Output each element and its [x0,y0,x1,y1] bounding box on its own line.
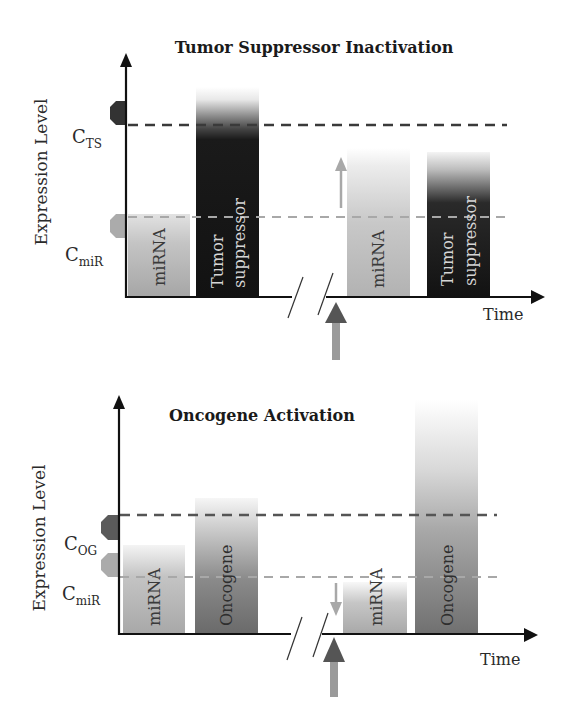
increase-arrow-icon [335,157,347,208]
bar-label-oncogene-after: Oncogene [438,545,457,627]
threshold-marker-cmir-icon [101,553,119,577]
threshold-label-cts: CTS [72,126,102,151]
y-axis-label: Expression Level [31,99,51,246]
x-axis-arrow-icon [524,628,538,642]
panel-tumor-suppressor-inactivation: Tumor Suppressor Inactivation Expression… [31,38,545,360]
axis-break-mark [287,617,302,660]
event-arrow-icon [325,302,347,360]
y-axis-arrow-icon [120,53,132,67]
threshold-label-cmir: CmiR [62,583,101,608]
threshold-label-cmir: CmiR [65,244,104,269]
threshold-marker-cts-icon [110,101,126,125]
bar-label-tumor-before-line2: suppressor [230,198,249,288]
panel-title: Oncogene Activation [169,406,355,425]
threshold-marker-cmir-icon [110,214,126,238]
event-arrow-icon [323,637,345,697]
panel-title: Tumor Suppressor Inactivation [175,38,454,57]
panel-oncogene-activation: Oncogene Activation Expression Level COG… [29,395,538,697]
x-axis-label: Time [480,650,520,669]
threshold-marker-cog-icon [101,515,119,540]
bar-label-mirna-before: miRNA [145,568,164,626]
bar-label-oncogene-before: Oncogene [217,545,236,627]
y-axis-arrow-icon [113,395,125,409]
bar-tumor-suppressor-after [427,152,490,297]
bar-tumor-suppressor-before [196,87,259,297]
bar-label-mirna-before: miRNA [150,228,169,286]
mirna-mechanism-figure: Tumor Suppressor Inactivation Expression… [0,0,577,726]
x-axis-label: Time [483,305,523,324]
axis-break-mark [318,273,333,315]
x-axis-arrow-icon [531,290,545,304]
threshold-label-cog: COG [64,533,97,558]
bar-label-mirna-after: miRNA [369,230,388,288]
bar-label-tumor-before-line1: Tumor [208,234,227,288]
bar-label-tumor-after-line2: suppressor [461,196,480,286]
bar-label-mirna-after: miRNA [367,568,386,626]
decrease-arrow-icon [330,583,342,616]
bar-label-tumor-after-line1: Tumor [438,232,457,286]
y-axis-label: Expression Level [29,465,49,612]
